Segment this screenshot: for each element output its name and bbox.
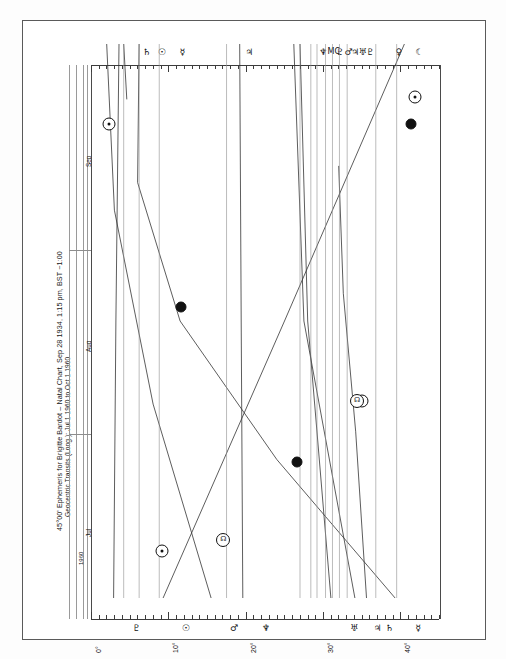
neptune-glyph: ♆: [262, 621, 270, 635]
degree-tick: [114, 615, 115, 619]
degree-tick: [315, 65, 316, 69]
degree-tick: [385, 615, 386, 619]
degree-tick: [439, 65, 440, 69]
degree-tick: [424, 65, 425, 69]
degree-tick: [269, 65, 270, 69]
degree-tick: [230, 65, 231, 69]
mercury-glyph: ☿: [179, 45, 185, 59]
degree-tick: [338, 615, 339, 619]
degree-tick: [261, 615, 262, 619]
degree-tick: [331, 615, 332, 619]
degree-tick: [253, 615, 254, 619]
sun-glyph: ☉: [158, 45, 166, 59]
degree-tick: [122, 65, 123, 69]
degree-tick: [331, 65, 332, 69]
aspect-marker-node-ring: ☊: [216, 533, 230, 547]
degree-tick: [292, 65, 293, 69]
month-gutter-rule-2: [76, 65, 77, 619]
month-gutter-rule-1: [69, 65, 70, 619]
degree-label-0: 0°: [95, 646, 102, 653]
moon-glyph: ☉: [182, 621, 190, 635]
degree-tick: [416, 65, 417, 69]
degree-tick: [176, 615, 177, 619]
degree-tick: [431, 65, 432, 69]
degree-tick: [99, 615, 100, 619]
degree-tick: [300, 65, 301, 69]
degree-tick: [230, 615, 231, 619]
degree-tick: [393, 615, 394, 619]
degree-label-40: 40°: [404, 642, 411, 653]
degree-tick: [369, 615, 370, 619]
degree-tick: [300, 615, 301, 619]
saturn-glyph: ♄: [143, 45, 151, 59]
degree-axis-top: [91, 65, 439, 66]
degree-tick: [400, 612, 401, 619]
degree-tick: [238, 615, 239, 619]
degree-tick: [161, 615, 162, 619]
degree-tick: [284, 65, 285, 69]
month-gutter-rule-3: [83, 65, 84, 619]
degree-tick: [130, 615, 131, 619]
degree-tick: [122, 615, 123, 619]
jupiter-glyph: ♃: [245, 45, 253, 59]
degree-tick: [369, 65, 370, 69]
degree-tick: [346, 65, 347, 69]
degree-tick: [199, 615, 200, 619]
degree-tick: [377, 615, 378, 619]
degree-tick: [153, 65, 154, 69]
degree-tick: [168, 612, 169, 619]
degree-tick: [114, 65, 115, 69]
degree-tick: [168, 65, 169, 72]
aspect-marker-moon-marker: [102, 118, 115, 131]
degree-tick: [137, 615, 138, 619]
aspect-marker-node-ring: ☊: [350, 394, 364, 408]
mars-glyph: ♂: [230, 621, 238, 635]
degree-tick: [184, 615, 185, 619]
degree-tick: [153, 615, 154, 619]
degree-tick: [277, 65, 278, 69]
degree-tick: [215, 65, 216, 69]
degree-tick: [354, 65, 355, 69]
degree-tick: [192, 615, 193, 619]
venus-glyph: ♀: [395, 45, 402, 59]
degree-tick: [137, 65, 138, 69]
degree-tick: [431, 615, 432, 619]
aspect-marker-conjunction: [291, 457, 302, 468]
degree-tick: [222, 615, 223, 619]
degree-tick: [323, 65, 324, 72]
moon-glyph: ☾: [416, 45, 424, 59]
degree-tick: [292, 615, 293, 619]
degree-tick: [91, 65, 92, 72]
degree-tick: [284, 615, 285, 619]
degree-tick: [269, 615, 270, 619]
degree-tick: [145, 65, 146, 69]
chart-sheet: 45°00' Ephemeris for Brigitte Bardot – N…: [22, 20, 486, 640]
degree-tick: [145, 615, 146, 619]
degree-tick: [161, 65, 162, 69]
degree-tick: [192, 65, 193, 69]
degree-axis-bottom: [91, 619, 439, 620]
degree-tick: [261, 65, 262, 69]
page-title: 45°00' Ephemeris for Brigitte Bardot – N…: [55, 251, 64, 531]
degree-tick: [400, 65, 401, 72]
degree-tick: [253, 65, 254, 69]
aspect-marker-conjunction: [175, 302, 186, 313]
degree-tick: [362, 65, 363, 69]
degree-tick: [207, 615, 208, 619]
degree-tick: [199, 65, 200, 69]
degree-tick: [246, 65, 247, 72]
plot-area: [91, 65, 441, 619]
degree-tick: [362, 615, 363, 619]
uranus-glyph: ♅: [350, 621, 358, 635]
degree-tick: [354, 615, 355, 619]
pluto-glyph: ♇: [336, 45, 344, 59]
degree-tick: [385, 65, 386, 69]
degree-tick: [338, 65, 339, 69]
aspect-marker-moon-marker: [155, 544, 168, 557]
degree-tick: [207, 65, 208, 69]
degree-tick: [408, 65, 409, 69]
degree-tick: [215, 615, 216, 619]
degree-tick: [308, 615, 309, 619]
aspect-marker-moon-marker: [409, 90, 422, 103]
degree-tick: [439, 615, 440, 619]
